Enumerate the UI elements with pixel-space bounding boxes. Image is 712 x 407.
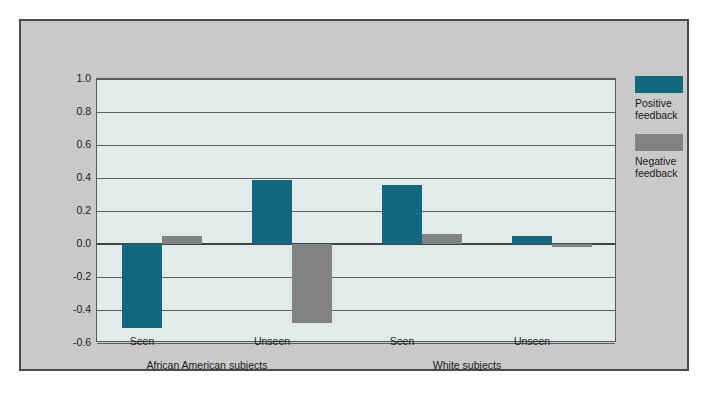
gridline [97,277,615,278]
x-axis-tick-label: Unseen [254,335,290,347]
bar-positive-2 [382,185,422,244]
chart-legend: Positive feedbackNegative feedback [635,76,705,192]
legend-swatch-negative [635,134,683,151]
y-axis-tick-label: -0.4 [49,303,91,315]
y-axis-tick-label: -0.2 [49,270,91,282]
gridline [97,310,615,311]
y-axis-tick-label: -0.6 [49,336,91,348]
chart-panel: 1.00.80.60.40.20.0-0.2-0.4-0.6 SeenUnsee… [19,19,689,371]
y-axis-tick-label: 0.8 [49,105,91,117]
bar-negative-0 [162,236,202,244]
bar-positive-1 [252,180,292,244]
y-axis-tick-label: 1.0 [49,72,91,84]
gridline [97,211,615,212]
x-axis-group-label: African American subjects [147,359,268,371]
gridline [97,112,615,113]
gridline [97,178,615,179]
legend-label: Negative feedback [635,155,705,179]
y-axis-tick-label: 0.0 [49,237,91,249]
legend-entry-negative: Negative feedback [635,134,705,179]
y-axis-tick-label: 0.4 [49,171,91,183]
bar-negative-1 [292,244,332,323]
y-axis-tick-label: 0.2 [49,204,91,216]
x-axis-tick-label: Unseen [514,335,550,347]
x-axis-tick-label: Seen [130,335,155,347]
x-axis-group-label: White subjects [433,359,501,371]
gridline [97,79,615,80]
bar-positive-3 [512,236,552,244]
bar-negative-3 [552,244,592,247]
bar-negative-2 [422,234,462,244]
legend-label: Positive feedback [635,97,705,121]
y-axis: 1.00.80.60.40.20.0-0.2-0.4-0.6 [41,78,91,342]
chart-figure: 1.00.80.60.40.20.0-0.2-0.4-0.6 SeenUnsee… [0,0,712,407]
bar-positive-0 [122,244,162,328]
gridline [97,145,615,146]
plot-area [96,78,616,342]
legend-swatch-positive [635,76,683,93]
y-axis-tick-label: 0.6 [49,138,91,150]
legend-entry-positive: Positive feedback [635,76,705,121]
x-axis-tick-label: Seen [390,335,415,347]
